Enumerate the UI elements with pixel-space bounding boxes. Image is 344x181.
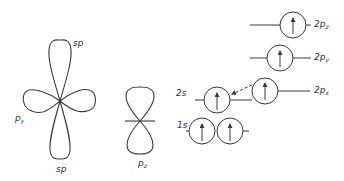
level-label-2px: 2px — [314, 86, 329, 96]
sp-hybrid-orbital — [23, 40, 95, 159]
level-label-1s: 1s — [177, 121, 187, 130]
promotion-arrow-icon — [232, 85, 252, 94]
py-label-sub: y — [21, 117, 25, 124]
pz-lobe-top — [126, 87, 154, 121]
pz-label-sub: z — [144, 162, 147, 169]
level-label-main: 2p — [314, 52, 325, 62]
level-label-sub: y — [325, 56, 329, 63]
level-label-2py: 2py — [314, 53, 329, 63]
level-label-main: 2p — [314, 19, 325, 29]
level-label-sub: z — [325, 23, 328, 30]
py-label: py — [15, 114, 24, 124]
level-2pz — [250, 12, 311, 38]
sp-lobe-bottom — [50, 101, 70, 159]
py-lobe-left — [23, 90, 60, 113]
level-label-main: 2p — [314, 85, 325, 95]
sp-bottom-label: sp — [56, 165, 66, 174]
level-2px — [252, 78, 310, 104]
energy-level-diagram — [186, 12, 311, 144]
pz-lobe-bottom — [127, 121, 153, 154]
pz-label: pz — [138, 159, 147, 169]
level-label-2s: 2s — [176, 89, 186, 98]
py-lobe-right — [60, 90, 95, 112]
orbital-diagram — [0, 0, 344, 181]
pz-orbital — [125, 87, 155, 154]
level-label-sub: x — [325, 89, 329, 96]
level-label-2pz: 2pz — [314, 20, 329, 30]
level-2s — [195, 87, 252, 113]
level-1s — [186, 118, 249, 144]
sp-top-label: sp — [73, 39, 83, 48]
level-2py — [250, 45, 311, 71]
sp-lobe-top — [49, 40, 71, 101]
